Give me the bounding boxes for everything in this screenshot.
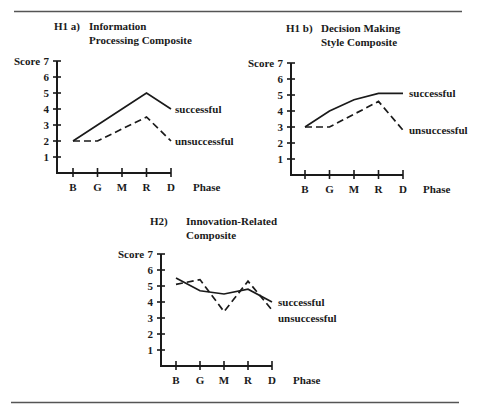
x-tick-label: R bbox=[375, 183, 384, 195]
x-tick-label: G bbox=[325, 183, 334, 195]
legend-label-successful: successful bbox=[278, 296, 324, 308]
axes bbox=[57, 61, 171, 173]
legend-label-unsuccessful: unsuccessful bbox=[175, 135, 234, 147]
y-tick-label: 6 bbox=[148, 264, 154, 276]
y-tick-label: 2 bbox=[148, 328, 154, 340]
y-axis-label: Score bbox=[248, 57, 274, 69]
y-tick-label: 4 bbox=[44, 103, 50, 115]
y-tick-label: 7 bbox=[278, 57, 284, 69]
x-tick-label: G bbox=[196, 374, 205, 386]
chart-title-line: Innovation-Related bbox=[186, 215, 277, 227]
figure: H1 a)InformationProcessing Composite1234… bbox=[0, 0, 479, 409]
chart-label: H1 a) bbox=[54, 20, 80, 33]
x-tick-label: M bbox=[219, 374, 230, 386]
series-line-unsuccessful bbox=[305, 101, 403, 130]
x-tick-label: B bbox=[69, 181, 77, 193]
legend-label-unsuccessful: unsuccessful bbox=[278, 312, 337, 324]
y-tick-label: 3 bbox=[278, 121, 284, 133]
chart-h2: H2)Innovation-RelatedComposite1234567Sco… bbox=[118, 215, 337, 386]
chart-title-line: Composite bbox=[186, 229, 236, 241]
x-axis-label: Phase bbox=[293, 374, 321, 386]
x-tick-label: M bbox=[117, 181, 128, 193]
chart-title-line: Information bbox=[89, 20, 146, 32]
x-tick-label: D bbox=[399, 183, 407, 195]
x-axis-label: Phase bbox=[423, 183, 451, 195]
axes bbox=[291, 63, 403, 175]
series-line-successful bbox=[305, 93, 403, 127]
series-line-unsuccessful bbox=[176, 280, 272, 312]
chart-title-line: Style Composite bbox=[321, 36, 397, 48]
chart-title-line: Processing Composite bbox=[89, 34, 192, 46]
x-tick-label: R bbox=[244, 374, 253, 386]
x-tick-label: M bbox=[349, 183, 360, 195]
y-tick-label: 2 bbox=[278, 137, 284, 149]
y-tick-label: 5 bbox=[148, 280, 154, 292]
x-tick-label: B bbox=[172, 374, 180, 386]
x-axis-label: Phase bbox=[193, 181, 221, 193]
y-axis-label: Score bbox=[118, 248, 144, 260]
x-tick-label: D bbox=[167, 181, 175, 193]
x-tick-label: D bbox=[268, 374, 276, 386]
y-tick-label: 1 bbox=[278, 153, 284, 165]
series-line-unsuccessful bbox=[73, 117, 171, 141]
legend-label-successful: successful bbox=[409, 87, 455, 99]
x-tick-label: B bbox=[301, 183, 309, 195]
y-tick-label: 5 bbox=[278, 89, 284, 101]
y-tick-label: 2 bbox=[44, 135, 50, 147]
chart-h1a: H1 a)InformationProcessing Composite1234… bbox=[14, 20, 234, 193]
y-tick-label: 1 bbox=[148, 344, 154, 356]
chart-title-line: Decision Making bbox=[321, 22, 401, 34]
chart-label: H1 b) bbox=[286, 22, 313, 35]
legend-label-successful: successful bbox=[175, 103, 221, 115]
y-tick-label: 1 bbox=[44, 151, 50, 163]
y-tick-label: 4 bbox=[148, 296, 154, 308]
chart-h1b: H1 b)Decision MakingStyle Composite12345… bbox=[248, 22, 468, 195]
y-tick-label: 7 bbox=[44, 55, 50, 67]
y-axis-label: Score bbox=[14, 55, 40, 67]
legend-label-unsuccessful: unsuccessful bbox=[409, 124, 468, 136]
axes bbox=[161, 254, 272, 366]
y-tick-label: 6 bbox=[278, 73, 284, 85]
y-tick-label: 3 bbox=[44, 119, 50, 131]
x-tick-label: G bbox=[93, 181, 102, 193]
chart-label: H2) bbox=[150, 215, 168, 228]
x-tick-label: R bbox=[143, 181, 152, 193]
y-tick-label: 4 bbox=[278, 105, 284, 117]
series-line-successful bbox=[73, 93, 171, 141]
y-tick-label: 5 bbox=[44, 87, 50, 99]
y-tick-label: 7 bbox=[148, 248, 154, 260]
y-tick-label: 6 bbox=[44, 71, 50, 83]
y-tick-label: 3 bbox=[148, 312, 154, 324]
